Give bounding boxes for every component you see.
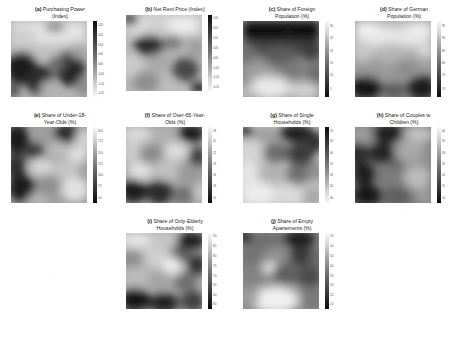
panel-f-tag: (f) bbox=[145, 112, 150, 118]
tick: -0.15 bbox=[213, 86, 219, 89]
tick: 15 bbox=[330, 62, 333, 65]
tick: 20 bbox=[442, 174, 445, 177]
panel-g-tag: (g) bbox=[270, 112, 277, 118]
tick: 4.0 bbox=[330, 265, 334, 268]
tick: 60 bbox=[330, 152, 333, 155]
panel-g-title: (g) Share of Single Households (%) bbox=[238, 112, 346, 125]
tick: 2.0 bbox=[330, 304, 334, 307]
tick: 10.0 bbox=[98, 174, 103, 177]
panel-i-title-line2: Households (%) bbox=[157, 225, 194, 231]
tick: 17.5 bbox=[98, 141, 103, 144]
tick: 28 bbox=[213, 130, 216, 133]
panel-j-title-line2: Apartements (%) bbox=[273, 225, 312, 231]
tick: 85 bbox=[442, 50, 445, 53]
panel-a-colorbar-gradient bbox=[93, 21, 97, 97]
tick: 0.10 bbox=[213, 37, 218, 40]
tick: 10 bbox=[213, 197, 216, 200]
figure-panel-grid: (a) Purchasing Power (Index) bbox=[0, 0, 463, 340]
panel-a-title-line1: Purchasing Power bbox=[43, 6, 85, 12]
panel-g-title-line1: Share of Single bbox=[278, 112, 313, 118]
panel-a: (a) Purchasing Power (Index) bbox=[6, 6, 114, 97]
panel-f-title: (f) Share of Over-65-Year- Olds (%) bbox=[121, 112, 229, 125]
tick: 70 bbox=[442, 88, 445, 91]
tick: 10 bbox=[442, 197, 445, 200]
panel-j-heatmap bbox=[243, 233, 319, 309]
tick: 22 bbox=[213, 152, 216, 155]
panel-e-heatmap bbox=[11, 127, 87, 203]
panel-a-heatmap bbox=[11, 21, 87, 97]
panel-b: (b) Net Rent Price (Index) bbox=[121, 6, 229, 91]
tick: 8.0 bbox=[213, 304, 217, 307]
tick: 13 bbox=[213, 186, 216, 189]
tick: 8.0 bbox=[213, 255, 217, 258]
tick: -0.10 bbox=[98, 84, 104, 87]
tick: 15.0 bbox=[98, 152, 103, 155]
tick: 0.15 bbox=[98, 34, 103, 37]
panel-f-colorbar: 28 25 22 19 16 13 10 bbox=[208, 127, 224, 203]
tick: 20 bbox=[330, 50, 333, 53]
tick: 8.5 bbox=[213, 245, 217, 248]
panel-h-colorbar-gradient bbox=[437, 127, 441, 203]
panel-d-tag: (d) bbox=[380, 6, 387, 12]
panel-g-colorbar-ticks: 70 65 60 55 50 45 40 bbox=[330, 127, 341, 203]
panel-i-title: (i) Share of Only-Elderly Households (%) bbox=[121, 218, 229, 231]
panel-b-title: (b) Net Rent Price (Index) bbox=[121, 6, 229, 13]
tick: 40 bbox=[442, 130, 445, 133]
tick: 80 bbox=[442, 62, 445, 65]
panel-i: (i) Share of Only-Elderly Households (%) bbox=[121, 218, 229, 309]
tick: 75 bbox=[442, 74, 445, 77]
panel-i-tag: (i) bbox=[147, 218, 152, 224]
tick: 16 bbox=[213, 174, 216, 177]
tick: 0.05 bbox=[213, 47, 218, 50]
panel-c-title: (c) Share of Foreign Population (%) bbox=[238, 6, 346, 19]
panel-h-title: (h) Share of Couples w. Children (%) bbox=[350, 112, 458, 125]
tick: 30 bbox=[330, 26, 333, 29]
tick: 55 bbox=[330, 164, 333, 167]
tick: 90 bbox=[442, 38, 445, 41]
panel-c-tag: (c) bbox=[269, 6, 275, 12]
panel-e: (e) Share of Under-18- Year-Olds (%) bbox=[6, 112, 114, 203]
tick: 9.0 bbox=[213, 236, 217, 239]
tick: 0.15 bbox=[213, 28, 218, 31]
panel-i-heatmap bbox=[126, 233, 202, 309]
tick: 25 bbox=[442, 164, 445, 167]
tick: 25 bbox=[213, 141, 216, 144]
tick: 7.5 bbox=[213, 265, 217, 268]
tick: 0.05 bbox=[98, 54, 103, 57]
tick: 0.10 bbox=[98, 44, 103, 47]
panel-f-title-line1: Share of Over-65-Year- bbox=[151, 112, 205, 118]
panel-e-colorbar-gradient bbox=[93, 127, 97, 203]
panel-i-colorbar-gradient bbox=[208, 233, 212, 309]
tick: 3.5 bbox=[330, 275, 334, 278]
panel-e-colorbar-ticks: 20.0 17.5 15.0 12.5 10.0 7.5 5.0 bbox=[98, 127, 109, 203]
panel-c-title-line2: Population (%) bbox=[275, 13, 309, 19]
panel-b-heatmap bbox=[126, 15, 202, 91]
panel-d-colorbar-ticks: 95 90 85 80 75 70 bbox=[442, 21, 453, 97]
tick: 30 bbox=[442, 152, 445, 155]
panel-i-colorbar: 9.0 8.5 8.0 7.5 7.0 6.5 6.0 8.0 bbox=[208, 233, 224, 309]
panel-e-title-line2: Year-Olds (%) bbox=[44, 119, 76, 125]
tick: -0.05 bbox=[98, 74, 104, 77]
panel-g-title-line2: Households (%) bbox=[274, 119, 311, 125]
panel-c-colorbar-gradient bbox=[325, 21, 329, 97]
tick: 20.0 bbox=[98, 130, 103, 133]
panel-j-title-line1: Share of Empty bbox=[277, 218, 313, 224]
panel-d-title: (d) Share of German Population (%) bbox=[350, 6, 458, 19]
panel-i-title-line1: Share of Only-Elderly bbox=[153, 218, 202, 224]
panel-f-colorbar-gradient bbox=[208, 127, 212, 203]
panel-a-colorbar: 0.20 0.15 0.10 0.05 0.00 -0.05 -0.10 -0.… bbox=[93, 21, 109, 97]
tick: 0.20 bbox=[98, 24, 103, 27]
tick: 19 bbox=[213, 164, 216, 167]
tick: 95 bbox=[442, 26, 445, 29]
panel-g-heatmap bbox=[243, 127, 319, 203]
panel-j-title: (j) Share of Empty Apartements (%) bbox=[238, 218, 346, 231]
tick: 50 bbox=[330, 174, 333, 177]
panel-b-tag: (b) bbox=[145, 6, 152, 12]
tick: 2.5 bbox=[330, 295, 334, 298]
panel-f: (f) Share of Over-65-Year- Olds (%) bbox=[121, 112, 229, 203]
tick: 5.0 bbox=[98, 197, 102, 200]
panel-c: (c) Share of Foreign Population (%) bbox=[238, 6, 346, 97]
panel-b-colorbar-ticks: 0.20 0.15 0.10 0.05 0.00 -0.05 -0.10 -0.… bbox=[213, 15, 224, 91]
panel-h-title-line2: Children (%) bbox=[390, 119, 419, 125]
panel-b-colorbar: 0.20 0.15 0.10 0.05 0.00 -0.05 -0.10 -0.… bbox=[208, 15, 224, 91]
